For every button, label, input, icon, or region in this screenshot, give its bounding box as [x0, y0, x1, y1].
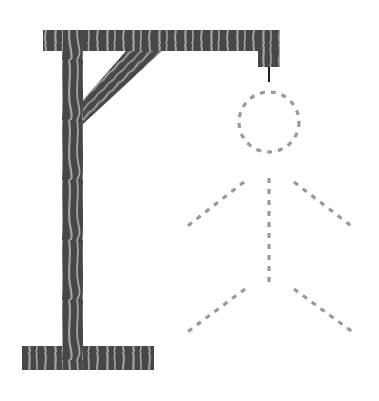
hangman-figure: [185, 92, 354, 333]
hangman-drawing: [0, 0, 379, 401]
gallows: [22, 30, 280, 370]
figure-left-arm: [185, 182, 244, 228]
gallows-diagonal-brace: [83, 51, 162, 124]
gallows-post: [62, 30, 83, 350]
gallows-base: [22, 346, 154, 370]
hangman-stage: [0, 0, 379, 401]
figure-head: [239, 92, 299, 152]
gallows-rope-block: [258, 51, 280, 67]
figure-left-leg: [186, 289, 245, 333]
gallows-post-over-base: [62, 340, 83, 370]
figure-right-arm: [294, 182, 354, 228]
figure-right-leg: [294, 289, 354, 333]
